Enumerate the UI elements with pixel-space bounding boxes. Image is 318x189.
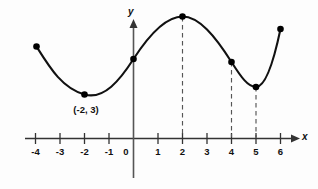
point-right-endpoint <box>277 26 284 33</box>
marked-points <box>33 13 284 98</box>
y-axis-arrow-icon <box>130 19 138 28</box>
point-at-4 <box>228 59 235 66</box>
x-tick-label-4: 4 <box>229 146 234 157</box>
point-local-maximum <box>179 13 186 20</box>
graph-figure: -4 -3 -2 -1 0 1 2 3 4 5 6 x y (-2, 3) <box>0 0 318 189</box>
point-annotation-minus2-3: (-2, 3) <box>73 104 98 115</box>
x-tick-label--4: -4 <box>31 146 39 157</box>
x-tick-label-0: 0 <box>123 146 128 157</box>
x-axis-arrow-icon <box>291 135 300 143</box>
x-tick-label--2: -2 <box>80 146 88 157</box>
y-axis-label: y <box>128 6 134 17</box>
point-local-minimum-right <box>253 84 260 91</box>
dashed-guide-lines <box>183 17 257 137</box>
x-tick-label--1: -1 <box>105 146 113 157</box>
point-local-minimum-left <box>81 91 88 98</box>
point-left-endpoint <box>33 43 40 50</box>
coordinate-plane-svg <box>0 0 318 189</box>
x-tick-label-6: 6 <box>278 146 283 157</box>
x-tick-label--3: -3 <box>56 146 64 157</box>
x-axis-label: x <box>302 131 308 142</box>
point-y-intercept <box>130 56 137 63</box>
x-tick-label-3: 3 <box>204 146 209 157</box>
x-tick-label-1: 1 <box>155 146 160 157</box>
x-tick-label-5: 5 <box>253 146 258 157</box>
x-tick-label-2: 2 <box>180 146 185 157</box>
function-curve <box>37 17 281 96</box>
